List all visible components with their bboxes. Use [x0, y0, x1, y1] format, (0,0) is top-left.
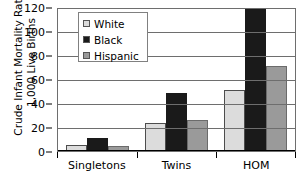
legend-item-white[interactable]: White — [83, 16, 147, 31]
y-axis-tick-mark — [46, 104, 52, 105]
x-axis-baseline — [58, 150, 295, 151]
gridline — [58, 80, 295, 81]
y-axis-tick-mark — [46, 56, 52, 57]
bar-hom-white[interactable] — [224, 90, 245, 151]
legend-item-label: Hispanic — [94, 50, 139, 62]
legend-swatch-icon — [83, 52, 90, 59]
y-axis-tick-mark — [46, 8, 52, 9]
legend-item-label: White — [94, 18, 125, 30]
bar-chart: Crude Infant Mortality Rate/ 1,000 Live … — [0, 0, 305, 176]
y-axis-tick-label: 80 — [31, 50, 45, 63]
y-axis-tick-label: 60 — [31, 74, 45, 87]
legend-swatch-icon — [83, 20, 90, 27]
y-axis-tick-label: 0 — [38, 146, 45, 159]
y-axis-tick-mark — [46, 152, 52, 153]
gridline — [58, 104, 295, 105]
y-axis-tick-label: 20 — [31, 122, 45, 135]
y-axis-tick-mark — [46, 128, 52, 129]
bar-twins-black[interactable] — [166, 93, 187, 151]
gridline — [58, 128, 295, 129]
y-axis-tick-mark — [46, 80, 52, 81]
legend-swatch-icon — [83, 36, 90, 43]
legend-item-label: Black — [94, 34, 122, 46]
y-axis-tick-label: 120 — [24, 2, 45, 15]
y-axis-tick-label: 40 — [31, 98, 45, 111]
legend: WhiteBlackHispanic — [78, 12, 148, 62]
bar-hom-hispanic[interactable] — [266, 66, 287, 151]
legend-item-black[interactable]: Black — [83, 32, 147, 47]
bar-twins-hispanic[interactable] — [187, 120, 208, 151]
x-axis-label-twins: Twins — [137, 158, 217, 176]
y-axis-tick-label: 100 — [24, 26, 45, 39]
legend-item-hispanic[interactable]: Hispanic — [83, 48, 147, 63]
y-axis-tick-mark — [46, 32, 52, 33]
y-axis-tick-labels: 020406080100120 — [0, 0, 52, 176]
x-axis-label-hom: HOM — [216, 158, 296, 176]
x-axis-labels: SingletonsTwinsHOM — [57, 158, 296, 176]
x-axis-label-singletons: Singletons — [57, 158, 137, 176]
